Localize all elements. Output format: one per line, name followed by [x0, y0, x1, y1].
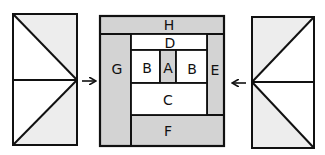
label-C: C	[163, 92, 173, 108]
center-quilt-block: H G E F D B A B C	[100, 16, 224, 146]
left-side-unit	[13, 14, 77, 145]
label-B-right: B	[187, 61, 197, 77]
piece-F	[131, 115, 224, 146]
label-E: E	[211, 62, 220, 78]
piece-H	[100, 16, 224, 34]
piece-G	[100, 34, 131, 146]
label-G: G	[112, 61, 123, 77]
right-side-unit	[252, 17, 314, 148]
label-H: H	[164, 17, 175, 33]
label-A: A	[163, 60, 173, 76]
label-D: D	[165, 35, 176, 51]
label-F: F	[164, 123, 172, 139]
quilt-block-diagram: H G E F D B A B C	[0, 0, 325, 155]
label-B-left: B	[142, 60, 152, 76]
